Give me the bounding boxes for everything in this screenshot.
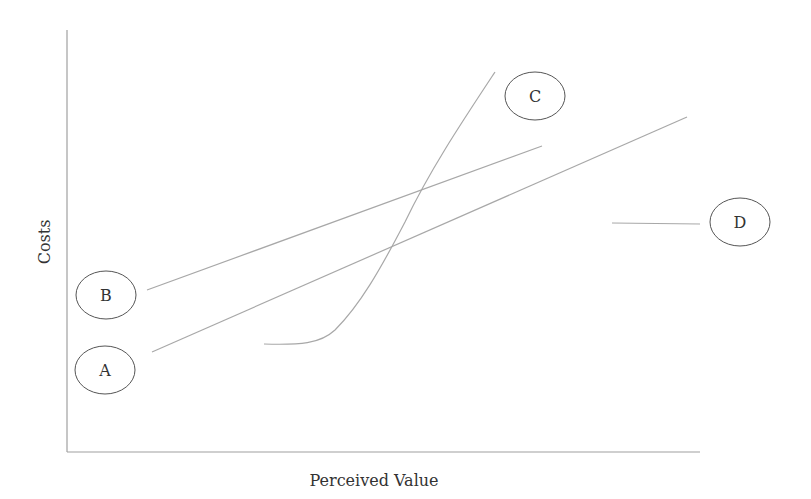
line-b <box>147 146 542 290</box>
node-c: C <box>505 72 565 120</box>
node-b-label: B <box>100 286 112 305</box>
node-d: D <box>710 198 770 246</box>
y-axis-label: Costs <box>35 220 54 265</box>
node-a: A <box>75 346 135 394</box>
x-axis-label: Perceived Value <box>309 471 438 490</box>
node-c-label: C <box>529 87 541 106</box>
node-b: B <box>76 271 136 319</box>
line-c <box>264 72 495 344</box>
node-d-label: D <box>734 213 747 232</box>
diagram-canvas: Costs Perceived Value A B C D <box>0 0 811 499</box>
node-a-label: A <box>98 361 111 380</box>
line-d <box>612 223 700 224</box>
line-a <box>152 117 687 352</box>
